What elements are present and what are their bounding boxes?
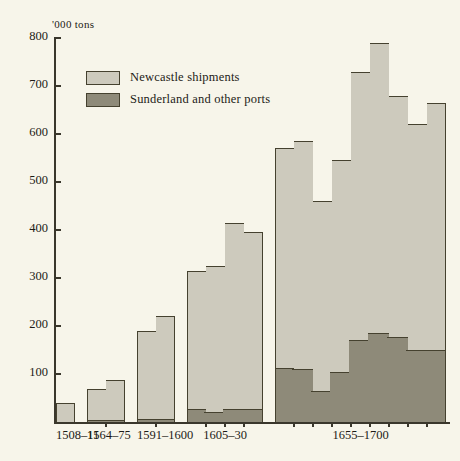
bar-1-0: [87, 389, 106, 422]
bar-sunderland-3-3: [242, 409, 262, 422]
bar-3-3: [244, 232, 263, 422]
x-axis-label-4: 1655–1700: [275, 428, 446, 443]
x-minor-tick: [243, 422, 245, 427]
bar-sunderland-2-1: [154, 419, 174, 422]
bar-sunderland-1-1: [104, 420, 124, 422]
bar-4-7: [408, 124, 427, 422]
bar-3-1: [206, 266, 225, 422]
legend-swatch-newcastle-icon: [86, 71, 120, 85]
bar-3-2: [225, 223, 244, 422]
bar-sunderland-4-8: [425, 350, 445, 422]
y-tick-label-500: 500: [4, 173, 48, 188]
legend-label-sunderland: Sunderland and other ports: [130, 92, 270, 107]
bar-2-1: [156, 316, 175, 422]
bar-4-3: [332, 160, 351, 422]
x-minor-tick: [105, 422, 107, 427]
legend-label-newcastle: Newcastle shipments: [130, 70, 240, 85]
x-axis-label-2: 1591–1600: [137, 428, 175, 443]
y-tick-label-400: 400: [4, 221, 48, 236]
y-tick-label-100: 100: [4, 365, 48, 380]
x-axis-label-3: 1605–30: [187, 428, 263, 443]
x-minor-tick: [426, 422, 428, 427]
x-minor-tick: [369, 422, 371, 427]
bar-4-1: [294, 141, 313, 422]
bar-0-0: [56, 403, 75, 422]
x-minor-tick: [407, 422, 409, 427]
bar-2-0: [137, 331, 156, 422]
y-tick-label-700: 700: [4, 77, 48, 92]
legend-swatch-sunderland-icon: [86, 93, 120, 107]
bar-3-0: [187, 271, 206, 422]
x-axis-label-1: 1564–75: [87, 428, 125, 443]
x-minor-tick: [224, 422, 226, 427]
bar-4-2: [313, 201, 332, 422]
legend-item-newcastle: Newcastle shipments: [86, 68, 270, 87]
bar-4-4: [351, 72, 370, 422]
x-minor-tick: [205, 422, 207, 427]
chart-legend: Newcastle shipments Sunderland and other…: [86, 68, 270, 112]
x-minor-tick: [388, 422, 390, 427]
y-tick-label-600: 600: [4, 125, 48, 140]
bar-4-8: [427, 103, 446, 422]
bar-4-6: [389, 96, 408, 422]
coal-shipments-bar-chart: '000 tons 100200300400500600700800 1508–…: [0, 0, 460, 461]
x-minor-tick: [155, 422, 157, 427]
bar-4-5: [370, 43, 389, 422]
bar-1-1: [106, 380, 125, 422]
x-axis-label-0: 1508–11: [56, 428, 75, 443]
bar-4-0: [275, 148, 294, 422]
legend-item-sunderland: Sunderland and other ports: [86, 90, 270, 109]
y-tick-label-200: 200: [4, 317, 48, 332]
y-tick-label-300: 300: [4, 269, 48, 284]
x-minor-tick: [350, 422, 352, 427]
y-tick-label-800: 800: [4, 29, 48, 44]
x-minor-tick: [331, 422, 333, 427]
x-minor-tick: [312, 422, 314, 427]
y-axis-unit-label: '000 tons: [52, 18, 94, 30]
x-axis-line: [54, 422, 450, 424]
x-minor-tick: [293, 422, 295, 427]
